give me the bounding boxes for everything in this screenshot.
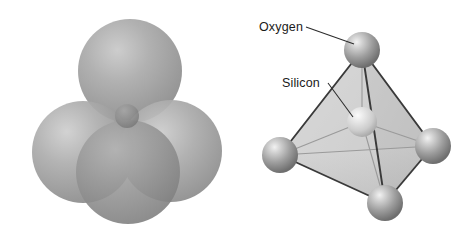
oxygen-leader-line [306, 27, 354, 44]
oxygen-atom-sphere [76, 120, 180, 224]
oxygen-atom-sphere-top [344, 32, 380, 68]
silicon-label: Silicon [282, 76, 320, 90]
silicon-atom-cap [115, 104, 139, 128]
space-filling-model-panel [0, 0, 240, 241]
ball-and-stick-svg: Oxygen Silicon [240, 0, 473, 241]
oxygen-atom-sphere-right [415, 128, 451, 164]
oxygen-atom-sphere-left [262, 137, 298, 173]
oxygen-atom-sphere-bottom [367, 185, 403, 221]
ball-and-stick-model-panel: Oxygen Silicon [240, 0, 473, 241]
space-filling-svg [0, 0, 240, 241]
figure-canvas: Oxygen Silicon [0, 0, 473, 241]
oxygen-label: Oxygen [259, 20, 303, 34]
silicon-atom-sphere [347, 107, 377, 137]
